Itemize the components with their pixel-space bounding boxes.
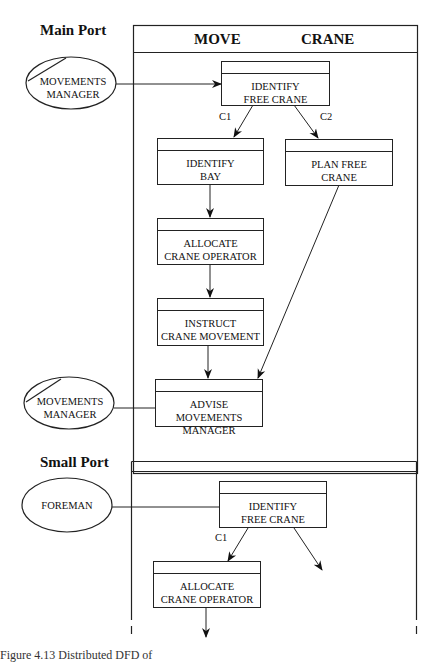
process-instruct-crane-movement[interactable]: INSTRUCTCRANE MOVEMENT — [157, 298, 264, 346]
process-identify-free-crane[interactable]: IDENTIFYFREE CRANE — [221, 61, 330, 106]
condition-c1-small: C1 — [215, 532, 227, 543]
main-port-label: Main Port — [40, 22, 106, 39]
header-crane: CRANE — [301, 31, 354, 48]
header-move: MOVE — [194, 31, 241, 48]
entity-label: MOVEMENTS MANAGER — [36, 75, 110, 101]
entity-label: MOVEMENTS MANAGER — [33, 395, 107, 421]
process-identify-free-crane-small[interactable]: IDENTIFYFREE CRANE — [219, 481, 327, 528]
process-identify-bay[interactable]: IDENTIFYBAY — [157, 138, 264, 185]
figure-caption: Figure 4.13 Distributed DFD of — [0, 648, 152, 663]
condition-c1: C1 — [219, 111, 231, 122]
process-plan-free-crane[interactable]: PLAN FREECRANE — [285, 139, 393, 186]
small-port-label: Small Port — [40, 454, 109, 471]
process-allocate-crane-operator-small[interactable]: ALLOCATECRANE OPERATOR — [153, 561, 261, 608]
process-advise-movements-manager[interactable]: ADVISE MOVEMENTSMANAGER — [155, 379, 263, 427]
condition-c2: C2 — [320, 111, 332, 122]
process-allocate-crane-operator[interactable]: ALLOCATECRANE OPERATOR — [157, 218, 264, 265]
entity-label: FOREMAN — [30, 499, 104, 512]
